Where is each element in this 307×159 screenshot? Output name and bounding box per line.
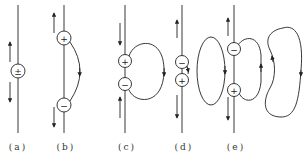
panel-d: − + (d)	[175, 5, 225, 152]
dipole-radiation-diagram: ± (a) + − (b) + − (c) − +	[0, 0, 307, 159]
panel-c: + − (c)	[118, 5, 164, 152]
panel-label: (e)	[227, 142, 245, 152]
panel-e: − + (e)	[227, 5, 302, 152]
charge-symbol: +	[230, 86, 238, 96]
charge-symbol: −	[60, 101, 68, 111]
charge-symbol: ±	[14, 67, 22, 77]
panel-b: + − (b)	[54, 5, 80, 152]
detached-field-loop	[197, 37, 225, 105]
panel-label: (b)	[57, 142, 76, 152]
current-loop	[129, 43, 164, 99]
charge-symbol: −	[121, 80, 129, 90]
panel-label: (a)	[9, 142, 27, 152]
detached-kidney-loop	[265, 27, 301, 117]
charge-symbol: −	[230, 45, 238, 55]
panel-a: ± (a)	[9, 5, 27, 152]
charge-symbol: +	[60, 34, 68, 44]
panel-label: (d)	[175, 142, 194, 152]
current-loop	[238, 39, 261, 101]
charge-symbol: +	[178, 76, 186, 86]
charge-symbol: −	[178, 58, 186, 68]
panel-label: (c)	[118, 142, 136, 152]
charge-symbol: +	[121, 57, 129, 67]
current-arc	[70, 42, 80, 101]
